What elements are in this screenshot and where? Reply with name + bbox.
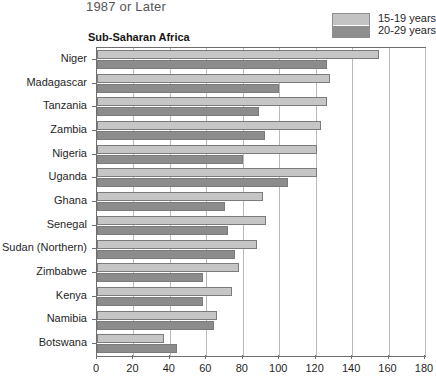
category-label: Tanzania [43,99,87,111]
bar [97,155,243,164]
bar [97,121,321,130]
value-tick-mark [315,355,316,359]
value-tick-mark [242,355,243,359]
bar [97,311,217,320]
bar [97,226,228,235]
bar [97,287,232,296]
bar [97,84,279,93]
value-tick-mark [278,355,279,359]
bar-group [97,285,425,309]
category-label: Madagascar [26,76,87,88]
bar-group [97,166,425,190]
bar-group [97,332,425,356]
value-tick-mark [351,355,352,359]
category-label: Niger [61,52,87,64]
bar [97,216,266,225]
category-label: Sudan (Northern) [2,241,87,253]
bar-group [97,95,425,119]
value-tick-label: 120 [305,362,323,374]
value-tick-label: 160 [378,362,396,374]
bar [97,240,257,249]
category-label: Zambia [50,123,87,135]
bar-group [97,190,425,214]
bar [97,297,203,306]
bar [97,60,327,69]
bar [97,131,265,140]
plot-area [96,47,426,357]
value-tick-label: 20 [126,362,138,374]
bar [97,334,164,343]
bar [97,263,239,272]
bar [97,321,214,330]
category-label: Uganda [48,170,87,182]
bar [97,178,288,187]
bar [97,273,203,282]
bar [97,202,225,211]
value-axis: 020406080100120140160180 [96,355,424,383]
bar-group [97,48,425,72]
value-tick-mark [169,355,170,359]
chart-legend: 15-19 years 20-29 years [332,12,436,38]
value-tick-mark [388,355,389,359]
page-title: 1987 or Later [86,0,166,14]
bar-group [97,261,425,285]
legend-swatch-dark [333,25,369,37]
bar [97,107,259,116]
bar [97,74,330,83]
value-tick-mark [132,355,133,359]
bar [97,50,379,59]
bar-group [97,309,425,333]
bar [97,250,235,259]
legend-label-15-19: 15-19 years [378,12,436,24]
region-subtitle: Sub-Saharan Africa [88,31,190,43]
category-label: Zimbabwe [36,265,87,277]
bar [97,192,263,201]
bar-rows [97,48,425,356]
value-tick-label: 0 [93,362,99,374]
value-tick-mark [96,355,97,359]
bar-group [97,143,425,167]
bar-group [97,72,425,96]
bar-group [97,119,425,143]
value-tick-label: 180 [415,362,433,374]
bar [97,97,327,106]
value-tick-mark [424,355,425,359]
value-tick-label: 60 [199,362,211,374]
value-tick-label: 80 [236,362,248,374]
legend-label-20-29: 20-29 years [378,24,436,36]
category-label: Ghana [54,194,87,206]
category-label: Nigeria [52,147,87,159]
gridline-180 [425,48,426,356]
value-tick-label: 40 [163,362,175,374]
bar-group [97,238,425,262]
legend-swatch-light [333,14,369,25]
category-label: Namibia [47,312,87,324]
value-tick-mark [205,355,206,359]
bar [97,344,177,353]
category-label: Kenya [56,289,87,301]
category-axis: NigerMadagascarTanzaniaZambiaNigeriaUgan… [0,47,92,355]
category-label: Botswana [39,336,87,348]
bar-group [97,214,425,238]
value-tick-label: 140 [342,362,360,374]
legend-swatches [332,13,370,38]
bar [97,145,317,154]
category-label: Senegal [47,218,87,230]
bar [97,168,317,177]
value-tick-label: 100 [269,362,287,374]
legend-labels: 15-19 years 20-29 years [378,12,436,36]
